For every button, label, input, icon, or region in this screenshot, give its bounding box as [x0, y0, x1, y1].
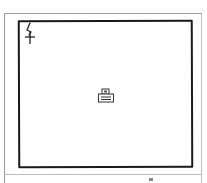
pen-stroke-icon	[23, 22, 37, 46]
status-indicator-icon	[149, 178, 153, 181]
status-divider	[4, 174, 202, 175]
printer-icon[interactable]	[97, 88, 115, 104]
